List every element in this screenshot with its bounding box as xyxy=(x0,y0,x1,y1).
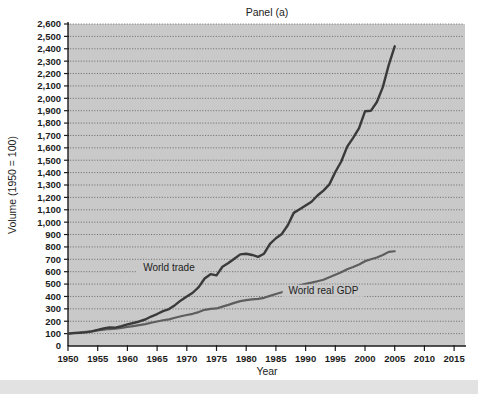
y-tick-label: 1,500 xyxy=(37,155,61,166)
y-tick-label: 2,400 xyxy=(37,43,61,54)
y-tick-label: 400 xyxy=(45,291,61,302)
y-tick-label: 1,700 xyxy=(37,130,61,141)
figure-container: 01002003004005006007008009001,0001,1001,… xyxy=(0,0,478,404)
x-tick-label: 1980 xyxy=(236,353,257,364)
x-tick-label: 2015 xyxy=(444,353,466,364)
x-tick-label: 2010 xyxy=(414,353,435,364)
x-tick-label: 1965 xyxy=(147,353,169,364)
y-tick-label: 900 xyxy=(45,229,61,240)
y-tick-label: 800 xyxy=(45,241,61,252)
panel-title: Panel (a) xyxy=(246,6,289,18)
x-axis-title: Year xyxy=(256,365,278,377)
series-annotation-label: World trade xyxy=(143,262,195,273)
y-tick-label: 1,100 xyxy=(37,204,61,215)
y-tick-label: 1,900 xyxy=(37,105,61,116)
y-tick-label: 2,100 xyxy=(37,80,61,91)
y-tick-label: 1,600 xyxy=(37,142,61,153)
y-tick-label: 600 xyxy=(45,266,61,277)
chart-canvas: 01002003004005006007008009001,0001,1001,… xyxy=(0,0,478,404)
x-tick-label: 1985 xyxy=(265,353,287,364)
x-tick-label: 1950 xyxy=(57,353,78,364)
y-tick-label: 1,800 xyxy=(37,117,61,128)
y-tick-label: 2,200 xyxy=(37,68,61,79)
x-tick-label: 2005 xyxy=(384,353,406,364)
y-tick-label: 1,400 xyxy=(37,167,61,178)
x-tick-label: 1995 xyxy=(325,353,347,364)
x-tick-label: 1990 xyxy=(295,353,316,364)
y-tick-label: 100 xyxy=(45,328,61,339)
y-tick-label: 1,300 xyxy=(37,179,61,190)
y-tick-label: 2,500 xyxy=(37,31,61,42)
x-tick-label: 1955 xyxy=(87,353,109,364)
x-tick-label: 1970 xyxy=(176,353,197,364)
y-tick-label: 2,600 xyxy=(37,18,61,29)
y-tick-label: 200 xyxy=(45,316,61,327)
y-tick-label: 500 xyxy=(45,278,61,289)
y-tick-label: 700 xyxy=(45,254,61,265)
y-tick-label: 1,000 xyxy=(37,217,61,228)
y-tick-label: 2,000 xyxy=(37,93,61,104)
y-tick-label: 1,200 xyxy=(37,192,61,203)
y-tick-label: 300 xyxy=(45,303,61,314)
y-tick-label: 0 xyxy=(56,340,61,351)
page-edge-band xyxy=(0,380,478,394)
x-tick-label: 2000 xyxy=(354,353,375,364)
y-tick-label: 2,300 xyxy=(37,56,61,67)
x-tick-label: 1975 xyxy=(206,353,228,364)
y-axis-title: Volume (1950 = 100) xyxy=(6,136,18,234)
series-annotation-label: World real GDP xyxy=(289,285,359,296)
page-edge-band-lower xyxy=(0,394,478,404)
x-tick-label: 1960 xyxy=(117,353,138,364)
